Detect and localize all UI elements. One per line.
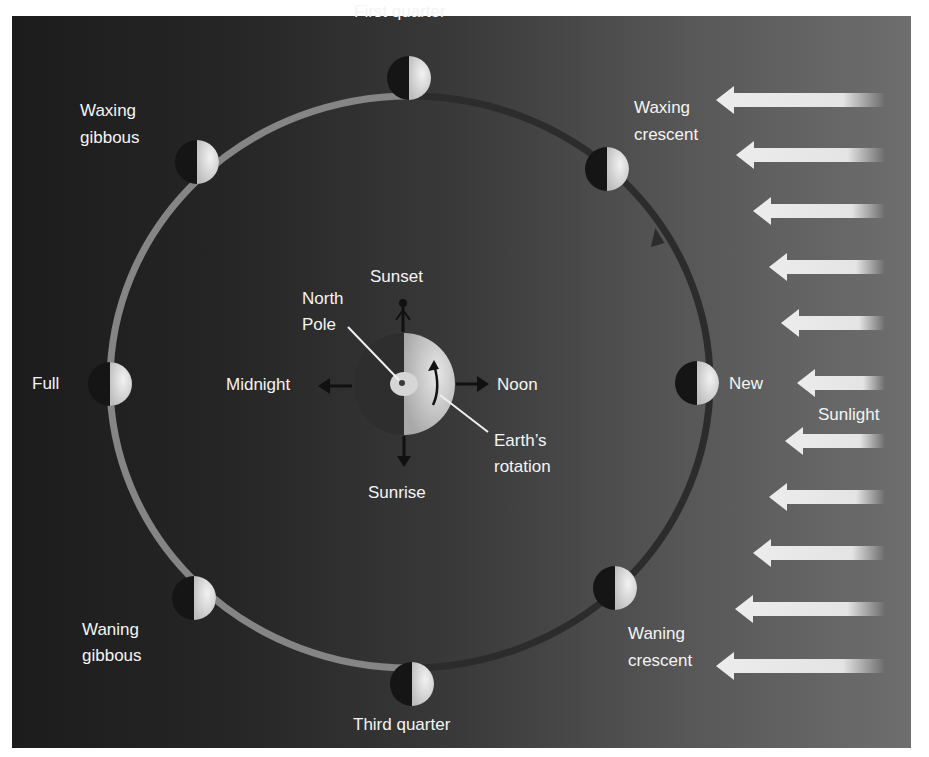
sun-arrow-icon [716, 86, 885, 114]
rotation-leader-line [440, 395, 488, 432]
sun-arrow-icon [769, 253, 885, 281]
label-north-pole-1: North [302, 288, 344, 309]
arrow-left-icon [318, 378, 352, 394]
sun-arrow-icon [781, 309, 885, 337]
moon-waning-gibbous-icon [172, 576, 216, 620]
moon-first-quarter-icon [387, 56, 431, 100]
label-sunrise: Sunrise [368, 482, 426, 503]
label-first-quarter: First quarter [354, 1, 446, 22]
arrow-down-icon [397, 436, 411, 467]
label-waning-crescent-1: Waning [628, 623, 685, 644]
label-waxing-gibbous-2: gibbous [80, 127, 140, 148]
label-sunlight: Sunlight [818, 404, 879, 425]
sun-arrow-icon [769, 483, 885, 511]
label-waning-gibbous-1: Waning [82, 619, 139, 640]
north-pole-marker [399, 380, 405, 386]
label-third-quarter: Third quarter [353, 714, 450, 735]
arrow-up-person-icon [396, 299, 410, 332]
label-waxing-gibbous-1: Waxing [80, 100, 136, 121]
label-waning-crescent-2: crescent [628, 650, 692, 671]
diagram-panel [12, 16, 911, 748]
sun-arrow-icon [753, 539, 885, 567]
label-midnight: Midnight [226, 374, 290, 395]
moon-waning-crescent-icon [593, 566, 637, 610]
label-noon: Noon [497, 374, 538, 395]
label-waxing-crescent-1: Waxing [634, 97, 690, 118]
label-waxing-crescent-2: crescent [634, 124, 698, 145]
label-earth-rotation-2: rotation [494, 456, 551, 477]
moon-full-icon [88, 362, 132, 406]
sun-arrow-icon [735, 595, 885, 623]
sun-arrow-icon [753, 197, 885, 225]
moon-phase-diagram [12, 16, 911, 748]
moon-new-icon [675, 361, 719, 405]
sun-arrow-icon [797, 369, 885, 397]
label-waning-gibbous-2: gibbous [82, 645, 142, 666]
label-sunset: Sunset [370, 266, 423, 287]
moon-third-quarter-icon [390, 662, 434, 706]
sun-arrow-icon [736, 141, 885, 169]
sun-arrow-icon [785, 427, 885, 455]
sun-arrow-icon [716, 652, 885, 680]
moon-waxing-crescent-icon [585, 147, 629, 191]
label-full: Full [32, 373, 59, 394]
arrow-right-icon [456, 376, 489, 392]
label-new: New [729, 373, 763, 394]
moon-waxing-gibbous-icon [175, 140, 219, 184]
label-earth-rotation-1: Earth’s [494, 430, 547, 451]
label-north-pole-2: Pole [302, 314, 336, 335]
